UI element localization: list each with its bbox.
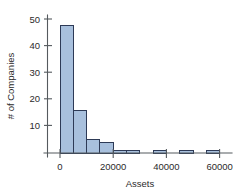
y-tick-label: 30 [29, 67, 40, 78]
y-tick-labels-group: 50 40 30 20 10 [29, 14, 40, 131]
histogram-bar [73, 111, 86, 153]
x-tick-label: 40000 [153, 161, 179, 172]
y-tick-label: 40 [29, 40, 40, 51]
bars-group [60, 26, 220, 153]
histogram-plot: 50 40 30 20 10 0 20000 40000 60000 Asset… [0, 0, 251, 195]
x-tick-label: 0 [57, 161, 62, 172]
y-tick-label: 10 [29, 120, 40, 131]
x-tick-labels-group: 0 20000 40000 60000 [57, 161, 232, 172]
x-tick-label: 60000 [206, 161, 232, 172]
histogram-bar [87, 140, 100, 153]
histogram-bar [100, 142, 113, 153]
x-tick-label: 20000 [100, 161, 126, 172]
histogram-figure: 50 40 30 20 10 0 20000 40000 60000 Asset… [0, 0, 251, 195]
y-tick-label: 50 [29, 14, 40, 25]
y-tick-label: 20 [29, 93, 40, 104]
histogram-bar [60, 26, 73, 153]
y-axis-title: # of Companies [5, 52, 16, 119]
x-axis-title: Assets [126, 178, 155, 189]
